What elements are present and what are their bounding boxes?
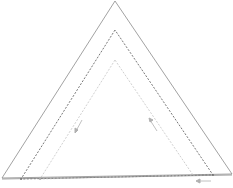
inner-vertex-marker: [39, 178, 41, 180]
right-side-arrow-icon: [149, 118, 157, 131]
triangle-diagram: [0, 0, 233, 188]
right-vertex-marker: [212, 174, 214, 176]
left-side-arrow-icon: [75, 120, 82, 133]
bottom-arrow-icon: [196, 179, 211, 183]
middle-triangle: [21, 30, 213, 179]
inner-triangle: [40, 60, 193, 179]
middle-vertex-marker: [20, 178, 22, 180]
